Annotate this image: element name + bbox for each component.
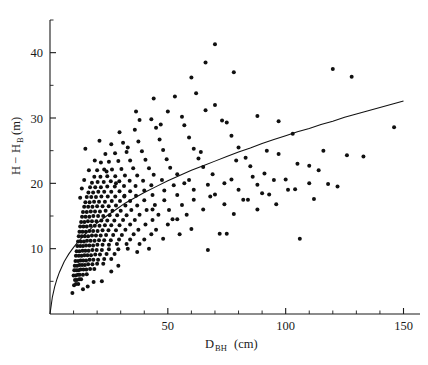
data-point	[97, 238, 101, 242]
y-axis-title-main-a: H	[9, 166, 23, 175]
data-point	[110, 209, 114, 213]
x-tick-label: 150	[394, 319, 413, 333]
data-point	[246, 198, 250, 202]
data-point	[180, 115, 184, 119]
data-point	[126, 247, 130, 251]
data-point	[128, 179, 132, 183]
data-point	[162, 189, 166, 193]
data-point	[138, 242, 142, 246]
data-point	[99, 185, 103, 189]
data-point	[87, 168, 91, 172]
data-point	[101, 214, 105, 218]
data-point	[119, 209, 123, 213]
data-point	[101, 262, 105, 266]
data-point	[392, 125, 396, 129]
data-point	[134, 109, 138, 113]
data-point	[147, 247, 151, 251]
data-point	[113, 194, 117, 198]
data-point	[94, 195, 98, 199]
data-point	[361, 155, 365, 159]
data-point	[102, 257, 106, 261]
data-point	[267, 192, 271, 196]
data-point	[86, 219, 90, 223]
data-point	[116, 264, 120, 268]
data-point	[93, 185, 97, 189]
data-point	[110, 168, 114, 172]
data-point	[106, 194, 110, 198]
data-point	[149, 232, 153, 236]
data-point	[116, 159, 120, 163]
data-point	[331, 67, 335, 71]
data-point	[76, 282, 80, 286]
data-point	[82, 205, 86, 209]
x-axis-title-sub: BH	[215, 343, 227, 353]
y-axis-ticks	[50, 20, 56, 281]
data-point	[87, 215, 91, 219]
data-point	[103, 200, 107, 204]
data-point	[106, 228, 110, 232]
data-point	[204, 108, 208, 112]
data-point	[189, 227, 193, 231]
data-point	[87, 243, 91, 247]
data-point	[185, 213, 189, 217]
data-point	[85, 239, 89, 243]
data-points-group	[70, 42, 396, 295]
data-point	[213, 42, 217, 46]
data-point	[80, 215, 84, 219]
data-point	[81, 273, 85, 277]
data-point	[345, 153, 349, 157]
data-point	[85, 272, 89, 276]
data-point	[175, 217, 179, 221]
data-point	[84, 258, 88, 262]
data-point	[149, 183, 153, 187]
data-point	[128, 189, 132, 193]
data-point	[248, 164, 252, 168]
data-point	[260, 191, 264, 195]
data-point	[95, 243, 99, 247]
data-point	[105, 219, 109, 223]
data-point	[109, 257, 113, 261]
data-point	[107, 247, 111, 251]
data-point	[277, 119, 281, 123]
data-point	[103, 152, 107, 156]
data-point	[129, 208, 133, 212]
data-point	[97, 224, 101, 228]
data-point	[145, 208, 149, 212]
data-point	[95, 204, 99, 208]
data-point	[86, 234, 90, 238]
data-point	[295, 162, 299, 166]
data-point	[135, 173, 139, 177]
data-point	[99, 219, 103, 223]
data-point	[201, 207, 205, 211]
data-point	[82, 178, 86, 182]
scatter-plot-svg: 50100150 10203040 D BH (cm) H − H B (m)	[0, 0, 428, 365]
y-axis-tick-labels: 10203040	[31, 46, 44, 256]
data-point	[237, 188, 241, 192]
data-point	[171, 217, 175, 221]
data-point	[312, 197, 316, 201]
data-point	[109, 270, 113, 274]
data-point	[255, 114, 259, 118]
data-point	[120, 233, 124, 237]
data-point	[116, 247, 120, 251]
data-point	[102, 238, 106, 242]
data-point	[307, 181, 311, 185]
data-point	[84, 230, 88, 234]
data-point	[104, 209, 108, 213]
data-point	[92, 280, 96, 284]
data-point	[140, 149, 144, 153]
data-point	[143, 222, 147, 226]
data-point	[88, 258, 92, 262]
data-point	[90, 181, 94, 185]
data-point	[90, 219, 94, 223]
data-point	[192, 198, 196, 202]
data-point	[99, 194, 103, 198]
data-point	[80, 187, 84, 191]
data-point	[101, 243, 105, 247]
data-point	[208, 194, 212, 198]
data-point	[128, 158, 132, 162]
data-point	[89, 239, 93, 243]
y-tick-label: 40	[31, 46, 44, 60]
chart-figure: 50100150 10203040 D BH (cm) H − H B (m)	[0, 0, 428, 365]
data-point	[119, 167, 123, 171]
